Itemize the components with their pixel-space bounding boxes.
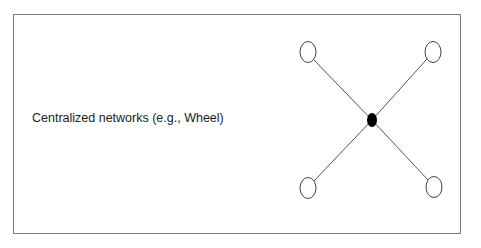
edge-bottom-left <box>314 120 372 181</box>
node-bottom-left <box>300 178 316 199</box>
hub-node <box>367 113 377 127</box>
node-bottom-right <box>426 177 442 198</box>
edge-top-left <box>314 60 372 120</box>
node-top-right <box>425 42 441 63</box>
edge-top-right <box>372 59 427 120</box>
node-top-left <box>300 42 316 63</box>
wheel-network-graph <box>0 0 481 248</box>
edge-bottom-right <box>372 120 428 180</box>
